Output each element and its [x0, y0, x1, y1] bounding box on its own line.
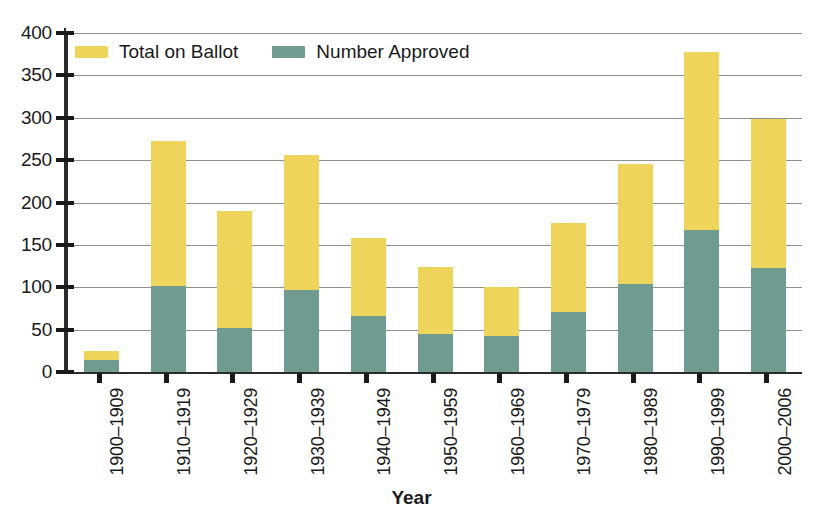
bar-group	[484, 287, 519, 372]
x-tick-label-5: 1950–1959	[442, 388, 460, 475]
x-tick-0	[97, 373, 102, 383]
legend-swatch-number-approved	[272, 46, 305, 58]
bar-segment-total-on-ballot	[418, 267, 453, 334]
y-tick-label-400: 400	[4, 23, 52, 42]
bar-segment-number-approved	[217, 328, 252, 372]
bar-group	[551, 223, 586, 372]
gridline-400	[68, 33, 802, 34]
bar-group	[217, 211, 252, 372]
x-tick-3	[297, 373, 302, 383]
bar-segment-total-on-ballot	[751, 119, 786, 268]
x-tick-8	[631, 373, 636, 383]
bar-segment-total-on-ballot	[84, 351, 119, 360]
y-tick-50	[56, 328, 74, 332]
x-tick-label-8: 1980–1989	[642, 388, 660, 475]
bar-group	[751, 119, 786, 372]
legend-item-total-on-ballot: Total on Ballot	[75, 42, 238, 61]
x-tick-4	[364, 373, 369, 383]
y-tick-label-200: 200	[4, 193, 52, 212]
y-tick-0	[56, 370, 74, 374]
x-tick-label-0: 1900–1909	[108, 388, 126, 475]
bar-chart: 050100150200250300350400 1900–19091910–1…	[0, 0, 823, 515]
x-tick-label-6: 1960–1969	[509, 388, 527, 475]
bar-segment-number-approved	[284, 290, 319, 372]
x-tick-1	[164, 373, 169, 383]
y-tick-350	[56, 73, 74, 77]
plot-area	[66, 33, 802, 372]
y-tick-300	[56, 116, 74, 120]
bar-segment-number-approved	[618, 284, 653, 372]
x-tick-label-9: 1990–1999	[709, 388, 727, 475]
y-tick-150	[56, 243, 74, 247]
bar-segment-number-approved	[351, 316, 386, 372]
bar-segment-total-on-ballot	[684, 52, 719, 231]
x-tick-label-3: 1930–1939	[309, 388, 327, 475]
legend-label-total-on-ballot: Total on Ballot	[119, 42, 238, 61]
legend-label-number-approved: Number Approved	[316, 42, 469, 61]
x-tick-6	[497, 373, 502, 383]
y-tick-label-150: 150	[4, 235, 52, 254]
bar-segment-number-approved	[84, 360, 119, 372]
bar-segment-total-on-ballot	[484, 287, 519, 335]
x-tick-label-2: 1920–1929	[242, 388, 260, 475]
bar-segment-number-approved	[551, 312, 586, 372]
bar-segment-number-approved	[484, 336, 519, 372]
bar-segment-number-approved	[151, 286, 186, 372]
x-tick-10	[764, 373, 769, 383]
y-tick-200	[56, 201, 74, 205]
bar-segment-total-on-ballot	[551, 223, 586, 312]
y-tick-label-350: 350	[4, 65, 52, 84]
legend-swatch-total-on-ballot	[75, 46, 108, 58]
bar-segment-total-on-ballot	[618, 164, 653, 283]
y-tick-250	[56, 158, 74, 162]
bar-group	[618, 164, 653, 372]
x-tick-label-10: 2000–2006	[776, 388, 794, 475]
chart-legend: Total on Ballot Number Approved	[75, 42, 470, 61]
bar-segment-total-on-ballot	[151, 141, 186, 286]
x-tick-label-4: 1940–1949	[375, 388, 393, 475]
bar-group	[684, 52, 719, 372]
x-tick-2	[230, 373, 235, 383]
bar-segment-number-approved	[418, 334, 453, 372]
y-tick-label-0: 0	[4, 362, 52, 381]
y-tick-100	[56, 285, 74, 289]
legend-item-number-approved: Number Approved	[272, 42, 469, 61]
bar-segment-number-approved	[684, 230, 719, 372]
y-tick-label-100: 100	[4, 277, 52, 296]
y-tick-label-300: 300	[4, 108, 52, 127]
x-tick-label-1: 1910–1919	[175, 388, 193, 475]
bar-group	[284, 155, 319, 372]
bar-group	[351, 238, 386, 372]
x-tick-9	[697, 373, 702, 383]
y-tick-label-250: 250	[4, 150, 52, 169]
x-axis-title: Year	[0, 487, 823, 509]
bar-segment-total-on-ballot	[284, 155, 319, 290]
y-tick-label-50: 50	[4, 320, 52, 339]
x-tick-label-7: 1970–1979	[575, 388, 593, 475]
x-tick-7	[564, 373, 569, 383]
bar-group	[418, 267, 453, 372]
bar-segment-total-on-ballot	[351, 238, 386, 316]
x-tick-5	[431, 373, 436, 383]
bar-segment-total-on-ballot	[217, 211, 252, 328]
bar-group	[151, 141, 186, 372]
bar-segment-number-approved	[751, 268, 786, 372]
bar-group	[84, 351, 119, 372]
y-tick-400	[56, 31, 74, 35]
